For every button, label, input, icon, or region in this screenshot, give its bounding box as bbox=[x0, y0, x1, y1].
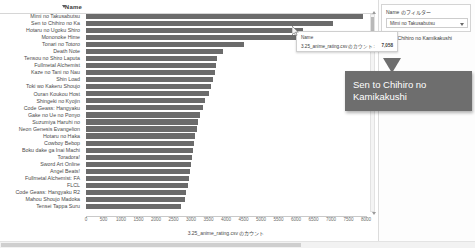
bar-row-label[interactable]: Mahou Shoujo Madoka bbox=[0, 196, 82, 203]
x-tick-label: 1000 bbox=[116, 217, 126, 222]
bar-row-label[interactable]: Fullmetal Alchemist: FA bbox=[0, 175, 82, 182]
bar-mark[interactable] bbox=[86, 42, 244, 47]
bar-row-label[interactable]: Ouran Koukou Host bbox=[0, 91, 82, 98]
name-filter-panel: Name のフィルター Mimi no Takusabutsu bbox=[381, 4, 471, 32]
bar-mark[interactable] bbox=[86, 133, 195, 138]
bar-row[interactable]: Ouran Koukou Host bbox=[0, 91, 372, 98]
column-header-name[interactable]: Name bbox=[8, 2, 82, 13]
bar-mark[interactable] bbox=[86, 84, 211, 89]
bar-row[interactable]: Code Geass: Hangyaku bbox=[0, 105, 372, 112]
bar-row[interactable]: Cowboy Bebop bbox=[0, 140, 372, 147]
x-tick-label: 8000 bbox=[361, 217, 371, 222]
bar-row-label[interactable]: Fullmetal Alchemist bbox=[0, 62, 82, 69]
x-tick-label: 0 bbox=[85, 217, 88, 222]
bar-mark[interactable] bbox=[86, 70, 215, 75]
bar-row-label[interactable]: Kaze no Tani no Nau bbox=[0, 69, 82, 76]
bar-row-label[interactable]: Hotaru no Haka bbox=[0, 133, 82, 140]
bar-row-label[interactable]: Angel Beats! bbox=[0, 168, 82, 175]
bar-row[interactable]: Shingeki no Kyojin bbox=[0, 98, 372, 105]
bar-row-label[interactable]: Cowboy Bebop bbox=[0, 140, 82, 147]
x-tick-label: 6500 bbox=[308, 217, 318, 222]
callout-text: Sen to Chihiro no Kamikakushi bbox=[353, 79, 469, 103]
bar-mark[interactable] bbox=[86, 197, 185, 202]
bar-mark[interactable] bbox=[86, 162, 191, 167]
tooltip: Name 3.25_anime_rating.csv のカウント: 7,058 bbox=[296, 31, 398, 52]
bar-mark[interactable] bbox=[86, 105, 203, 110]
bar-row[interactable]: Toradora! bbox=[0, 154, 372, 161]
bar-row-label[interactable]: Neon Genesis Evangelion bbox=[0, 126, 82, 133]
bar-mark[interactable] bbox=[86, 56, 217, 61]
x-tick-label: 3500 bbox=[203, 217, 213, 222]
bar-row-label[interactable]: Mononoke Hime bbox=[0, 34, 82, 41]
bar-row[interactable]: Tensei Tappa Suru bbox=[0, 203, 372, 210]
bar-mark[interactable] bbox=[86, 141, 194, 146]
bar-row-label[interactable]: FLCL bbox=[0, 182, 82, 189]
bar-row[interactable]: FLCL bbox=[0, 182, 372, 189]
bar-row[interactable]: Kaze no Tani no Nau bbox=[0, 69, 372, 76]
bar-row[interactable]: Suzumiya Haruhi no bbox=[0, 119, 372, 126]
bar-mark[interactable] bbox=[86, 112, 200, 117]
bar-row-label[interactable]: Toki wo Kakeru Shoujo bbox=[0, 83, 82, 90]
bar-row[interactable]: Code Geass: Hangyaku R2 bbox=[0, 189, 372, 196]
bar-mark[interactable] bbox=[86, 35, 296, 40]
bar-row[interactable]: Boku dake ga Inai Machi bbox=[0, 147, 372, 154]
bar-row-label[interactable]: Tensou no Shiro Laputa bbox=[0, 55, 82, 62]
bar-row[interactable]: Shin Load bbox=[0, 76, 372, 83]
bar-row[interactable]: Neon Genesis Evangelion bbox=[0, 126, 372, 133]
bar-row[interactable]: Sen to Chihiro no Ka bbox=[0, 20, 372, 27]
bar-mark[interactable] bbox=[86, 155, 192, 160]
x-tick-label: 7500 bbox=[343, 217, 353, 222]
x-tick-label: 2500 bbox=[168, 217, 178, 222]
sort-descending-icon[interactable] bbox=[62, 5, 66, 8]
bar-row[interactable]: Mimi no Takusabutsu bbox=[0, 13, 372, 20]
bar-row[interactable]: Fullmetal Alchemist: FA bbox=[0, 175, 372, 182]
bar-row-label[interactable]: Tensei Tappa Suru bbox=[0, 203, 82, 210]
bar-row[interactable]: Toki wo Kakeru Shoujo bbox=[0, 83, 372, 90]
x-tick-label: 7000 bbox=[326, 217, 336, 222]
scroll-up-arrow-icon[interactable] bbox=[372, 11, 376, 14]
bar-mark[interactable] bbox=[86, 119, 198, 124]
bar-row-label[interactable]: Code Geass: Hangyaku R2 bbox=[0, 189, 82, 196]
bar-row-label[interactable]: Boku dake ga Inai Machi bbox=[0, 147, 82, 154]
bar-mark[interactable] bbox=[86, 77, 213, 82]
bar-mark[interactable] bbox=[86, 28, 303, 33]
bar-row-label[interactable]: Gake no Ue no Ponyo bbox=[0, 112, 82, 119]
bar-mark[interactable] bbox=[86, 204, 181, 209]
bar-mark[interactable] bbox=[86, 91, 209, 96]
bar-mark[interactable] bbox=[86, 126, 197, 131]
bar-row-label[interactable]: Suzumiya Haruhi no bbox=[0, 119, 82, 126]
x-tick-label: 4000 bbox=[221, 217, 231, 222]
bar-mark[interactable] bbox=[86, 148, 193, 153]
bar-row-label[interactable]: Sword Art Online bbox=[0, 161, 82, 168]
bar-row-label[interactable]: Mimi no Takusabutsu bbox=[0, 13, 82, 20]
horizontal-scrollbar[interactable] bbox=[0, 241, 475, 248]
bar-mark[interactable] bbox=[86, 49, 223, 54]
bar-row-label[interactable]: Tonari no Totoro bbox=[0, 41, 82, 48]
bar-row-label[interactable]: Code Geass: Hangyaku bbox=[0, 105, 82, 112]
bar-row[interactable]: Hotaru no Haka bbox=[0, 133, 372, 140]
horizontal-scrollbar-thumb[interactable] bbox=[1, 243, 301, 247]
scroll-down-arrow-icon[interactable] bbox=[372, 212, 376, 215]
bar-mark[interactable] bbox=[86, 176, 189, 181]
bar-row-label[interactable]: Hotaru no Ugoku Shiro bbox=[0, 27, 82, 34]
bar-row[interactable]: Angel Beats! bbox=[0, 168, 372, 175]
bar-mark[interactable] bbox=[86, 183, 188, 188]
bar-mark[interactable] bbox=[86, 98, 205, 103]
bar-mark[interactable] bbox=[86, 190, 186, 195]
bar-row-label[interactable]: Shingeki no Kyojin bbox=[0, 98, 82, 105]
bar-row-label[interactable]: Death Note bbox=[0, 48, 82, 55]
tableau-bar-chart-view: Name Mimi no TakusabutsuSen to Chihiro n… bbox=[0, 0, 475, 248]
bar-row[interactable]: Sword Art Online bbox=[0, 161, 372, 168]
bar-row-label[interactable]: Shin Load bbox=[0, 76, 82, 83]
bar-row-label[interactable]: Sen to Chihiro no Ka bbox=[0, 20, 82, 27]
bar-row[interactable]: Mahou Shoujo Madoka bbox=[0, 196, 372, 203]
bar-row[interactable]: Fullmetal Alchemist bbox=[0, 62, 372, 69]
filter-dropdown[interactable]: Mimi no Takusabutsu bbox=[386, 18, 468, 28]
chevron-down-icon[interactable] bbox=[460, 23, 464, 26]
bar-mark[interactable] bbox=[86, 169, 190, 174]
bar-mark[interactable] bbox=[86, 14, 363, 19]
bar-mark[interactable] bbox=[86, 63, 216, 68]
bar-row[interactable]: Gake no Ue no Ponyo bbox=[0, 112, 372, 119]
bar-row-label[interactable]: Toradora! bbox=[0, 154, 82, 161]
bar-row[interactable]: Tensou no Shiro Laputa bbox=[0, 55, 372, 62]
